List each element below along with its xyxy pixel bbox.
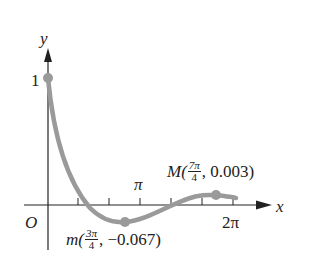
x-ticks (78, 198, 233, 205)
x-axis-arrow-icon (256, 201, 272, 210)
y-tick-label-1: 1 (31, 72, 40, 89)
y-axis-arrow-icon (44, 48, 52, 62)
origin-label: O (25, 214, 37, 231)
min-annotation: m( 3π4 , −0.067) (66, 228, 161, 251)
x-axis-label: x (276, 198, 284, 215)
y-axis-label: y (40, 30, 48, 47)
min-point (120, 217, 130, 227)
curve-line (48, 78, 236, 222)
start-point (43, 73, 53, 83)
max-point (211, 190, 221, 200)
max-annotation: M( 7π4 , 0.003) (167, 160, 254, 183)
x-tick-label-pi: π (134, 176, 143, 193)
x-tick-label-2pi: 2π (222, 214, 239, 231)
